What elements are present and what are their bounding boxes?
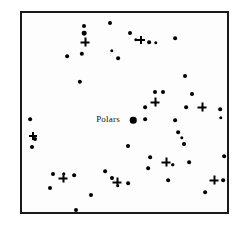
cross-vertical-bar (62, 174, 64, 183)
star-point (110, 49, 113, 52)
star-point (147, 40, 151, 44)
star-point (28, 117, 32, 121)
star-point (148, 155, 152, 159)
star-cross-marker (210, 176, 219, 185)
star-point (183, 74, 187, 78)
star-cross-marker (198, 103, 207, 112)
star-cross-marker (162, 158, 171, 167)
star-cross-marker (113, 178, 122, 187)
star-point (182, 142, 186, 146)
star-point (128, 31, 132, 35)
star-point (108, 21, 112, 25)
star-cross-marker (151, 98, 160, 107)
star-point (146, 166, 150, 170)
star-point (103, 169, 107, 173)
star-cross-marker (59, 174, 68, 183)
scatter-plot-area: Polars (22, 13, 227, 212)
star-chart-figure: Polars (0, 0, 249, 232)
star-point (74, 208, 78, 212)
star-point (184, 105, 188, 109)
cross-vertical-bar (213, 176, 215, 185)
star-point (89, 193, 93, 197)
star-point (130, 117, 137, 124)
star-point (176, 130, 180, 134)
star-point (219, 116, 222, 119)
cross-vertical-bar (84, 38, 86, 47)
star-point (126, 144, 130, 148)
star-point (82, 31, 87, 36)
star-point (161, 90, 165, 94)
star-point (143, 117, 147, 121)
star-point (203, 190, 207, 194)
star-point (222, 154, 226, 158)
cross-vertical-bar (140, 36, 142, 44)
star-point (65, 54, 69, 58)
polars-label: Polars (96, 114, 120, 124)
plot-frame: Polars (20, 11, 229, 214)
cross-vertical-bar (165, 158, 167, 167)
cross-vertical-bar (32, 132, 34, 140)
star-point (187, 160, 191, 164)
star-point (171, 163, 174, 166)
star-point (166, 178, 170, 182)
star-point (51, 172, 55, 176)
cross-vertical-bar (201, 103, 203, 112)
star-cross-marker (137, 36, 145, 44)
star-point (221, 178, 225, 182)
star-point (48, 186, 52, 190)
star-point (218, 107, 222, 111)
star-cross-marker (81, 38, 90, 47)
star-point (72, 173, 76, 177)
star-point (30, 145, 34, 149)
star-point (82, 24, 86, 28)
star-point (173, 118, 177, 122)
cross-vertical-bar (154, 98, 156, 107)
star-point (153, 90, 157, 94)
star-point (154, 41, 157, 44)
star-cross-marker (29, 132, 37, 140)
star-point (78, 80, 82, 84)
star-point (143, 105, 147, 109)
cross-vertical-bar (116, 178, 118, 187)
star-point (80, 52, 84, 56)
star-point (126, 181, 130, 185)
star-point (173, 36, 177, 40)
star-point (190, 92, 194, 96)
star-point (180, 136, 183, 139)
star-point (116, 56, 120, 60)
